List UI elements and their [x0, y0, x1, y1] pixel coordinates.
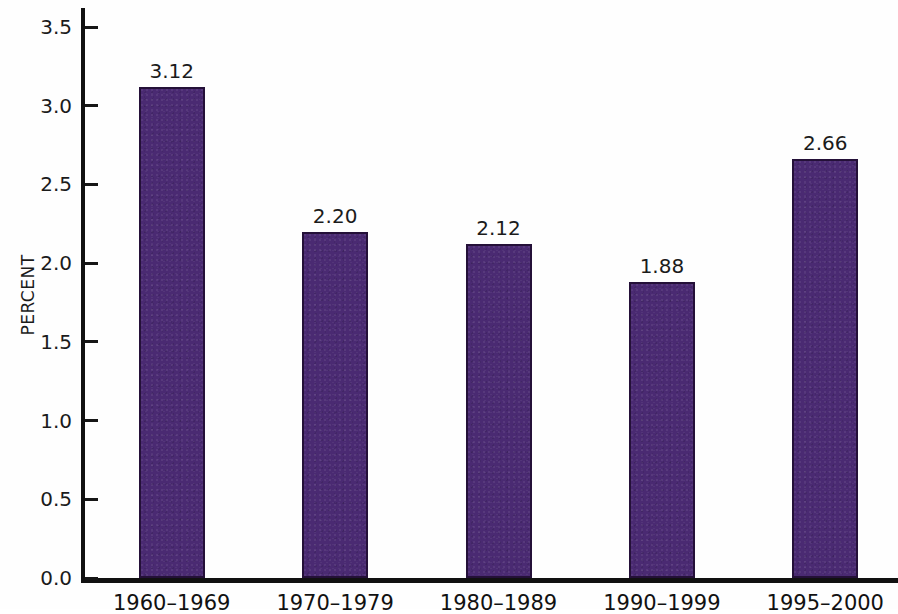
y-axis-tick [85, 340, 98, 343]
bar-value-label: 2.66 [775, 131, 875, 155]
bar-value-label: 3.12 [122, 59, 222, 83]
bar [139, 87, 205, 578]
bar [302, 232, 368, 578]
y-axis-tick-label: 0.5 [12, 487, 72, 511]
bar [792, 159, 858, 578]
y-axis-tick-label: 2.0 [12, 251, 72, 275]
y-axis-tick-label: 1.5 [12, 330, 72, 354]
y-axis-tick [85, 183, 98, 186]
y-axis-tick [85, 26, 98, 29]
x-axis-tick-label: 1990–1999 [582, 591, 742, 614]
y-axis-tick [85, 498, 98, 501]
y-axis-tick-label: 3.5 [12, 15, 72, 39]
bar-value-label: 2.12 [449, 216, 549, 240]
x-axis-spine [81, 578, 898, 583]
y-axis-tick [85, 419, 98, 422]
x-axis-tick-label: 1970–1979 [255, 591, 415, 614]
y-axis-tick-label: 3.0 [12, 94, 72, 118]
x-axis-tick-label: 1960–1969 [92, 591, 252, 614]
y-axis-tick-label: 1.0 [12, 409, 72, 433]
bar [466, 244, 532, 578]
x-axis-tick-label: 1980–1989 [419, 591, 579, 614]
plot-area: 3.122.202.121.882.66 1960–19691970–19791… [81, 8, 898, 580]
bar-value-label: 2.20 [285, 204, 385, 228]
y-axis-tick [85, 262, 98, 265]
y-axis-tick [85, 577, 98, 580]
y-axis-tick-label: 0.0 [12, 566, 72, 590]
y-axis-tick-label: 2.5 [12, 172, 72, 196]
y-axis-spine [81, 8, 85, 580]
y-axis-tick [85, 104, 98, 107]
bar [629, 282, 695, 578]
x-axis-tick-label: 1995–2000 [745, 591, 898, 614]
y-axis-tick-label-group: 0.00.51.01.52.02.53.03.5 [8, 8, 72, 580]
bar-value-label: 1.88 [612, 254, 712, 278]
